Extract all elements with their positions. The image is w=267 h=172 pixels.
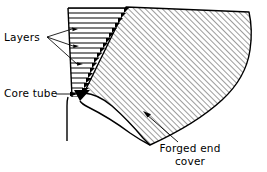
core-tube-label: Core tube (4, 87, 57, 99)
multilayer-vessel-diagram: Layers Core tube Forged end cover (0, 0, 267, 172)
forged-end-cover-label-line1: Forged end (159, 142, 220, 154)
annotation-core-tube: Core tube (4, 87, 78, 99)
forged-end-cover-label-line2: cover (175, 155, 206, 167)
layers-label: Layers (4, 31, 40, 43)
core-tube-bore-wall (67, 97, 68, 141)
